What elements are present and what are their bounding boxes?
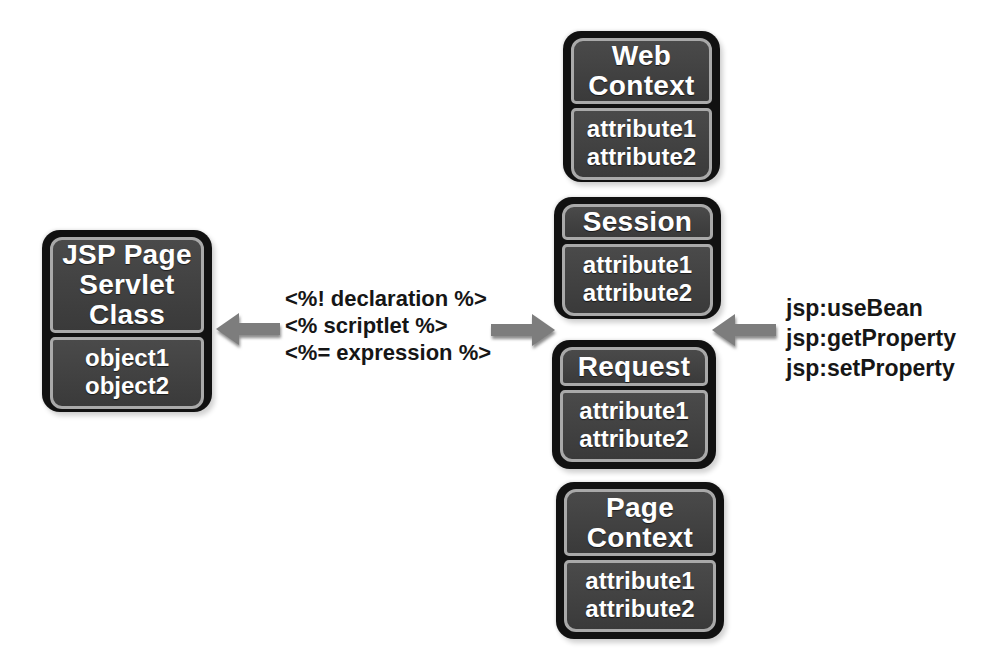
request-box: Request attribute1 attribute2 (552, 340, 716, 469)
attribute-item: attribute2 (567, 595, 713, 623)
action-line: jsp:useBean (786, 293, 956, 323)
attribute-item: attribute1 (567, 567, 713, 595)
arrow-right-icon (491, 312, 557, 348)
web-context-box: Web Context attribute1 attribute2 (563, 31, 720, 182)
arrow-left-icon (710, 312, 776, 348)
box-title-line: Class (53, 300, 201, 330)
box-title: Page Context (564, 489, 716, 556)
attribute-item: attribute2 (565, 279, 710, 307)
scripting-line: <%! declaration %> (285, 285, 491, 312)
session-box: Session attribute1 attribute2 (554, 197, 721, 319)
box-title: Web Context (571, 38, 712, 104)
box-title: Session (562, 204, 713, 240)
attribute-item: attribute1 (563, 397, 705, 425)
jsp-actions-label: jsp:useBean jsp:getProperty jsp:setPrope… (786, 293, 956, 383)
box-title-line: Web (574, 41, 709, 71)
attribute-item: attribute2 (563, 425, 705, 453)
box-title-line: Context (574, 71, 709, 101)
box-title-line: Request (563, 352, 705, 382)
diagram-canvas: JSP Page Servlet Class object1 object2 W… (0, 0, 988, 666)
arrow-left-icon (214, 311, 280, 347)
page-context-box: Page Context attribute1 attribute2 (556, 482, 724, 639)
box-attributes: object1 object2 (50, 337, 204, 409)
box-title-line: Session (565, 207, 710, 237)
scripting-elements-label: <%! declaration %> <% scriptlet %> <%= e… (285, 285, 491, 366)
attribute-item: attribute1 (574, 115, 709, 143)
attribute-item: object1 (53, 344, 201, 372)
attribute-item: attribute1 (565, 251, 710, 279)
box-attributes: attribute1 attribute2 (571, 108, 712, 180)
box-attributes: attribute1 attribute2 (564, 560, 716, 632)
box-attributes: attribute1 attribute2 (562, 244, 713, 316)
attribute-item: attribute2 (574, 143, 709, 171)
box-title-line: Context (567, 523, 713, 553)
scripting-line: <%= expression %> (285, 339, 491, 366)
box-title: JSP Page Servlet Class (50, 237, 204, 333)
jsp-page-servlet-class-box: JSP Page Servlet Class object1 object2 (42, 230, 212, 412)
action-line: jsp:setProperty (786, 353, 956, 383)
box-title: Request (560, 347, 708, 386)
box-title-line: Servlet (53, 270, 201, 300)
box-title-line: JSP Page (53, 240, 201, 270)
attribute-item: object2 (53, 372, 201, 400)
action-line: jsp:getProperty (786, 323, 956, 353)
box-attributes: attribute1 attribute2 (560, 390, 708, 462)
scripting-line: <% scriptlet %> (285, 312, 491, 339)
box-title-line: Page (567, 493, 713, 523)
